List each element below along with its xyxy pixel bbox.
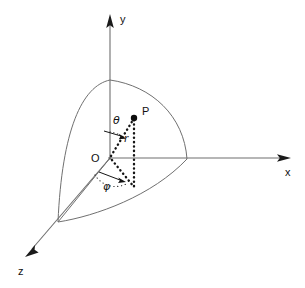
phi-arrowhead <box>118 178 126 183</box>
labels-group: y x z O P θ φ r <box>18 13 291 277</box>
y-axis <box>106 14 114 160</box>
point-p-label: P <box>142 105 149 117</box>
z-axis-label: z <box>18 265 24 277</box>
phi-leader-line <box>99 172 120 180</box>
phi-label: φ <box>103 180 111 193</box>
radius-label: r <box>124 131 129 145</box>
construction-lines <box>111 120 134 187</box>
z-axis-line <box>32 158 110 249</box>
spherical-coordinates-figure: y x z O P θ φ r <box>0 0 305 288</box>
z-axis <box>25 158 110 257</box>
shell-arc-right <box>110 80 187 159</box>
shell-arc-left <box>58 80 110 222</box>
origin-label: O <box>91 152 100 164</box>
x-axis-label: x <box>285 166 291 178</box>
octant-shell <box>58 80 187 222</box>
theta-label: θ <box>113 114 120 127</box>
theta-leader-line <box>104 131 121 136</box>
point-p-dot <box>131 115 137 121</box>
projection-line <box>112 160 134 187</box>
y-axis-label: y <box>120 13 126 25</box>
figure-canvas: y x z O P θ φ r <box>0 0 305 288</box>
shell-arc-bottom <box>58 159 187 222</box>
x-axis <box>108 154 291 162</box>
z-axis-arrowhead <box>25 245 39 257</box>
